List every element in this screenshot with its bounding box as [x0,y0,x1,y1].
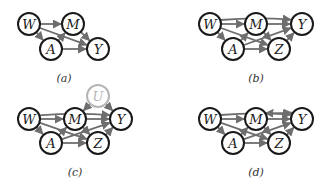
node-u-latent: U [87,85,109,107]
panel-b-nodes: WMYAZ [199,13,313,60]
node-w: W [199,108,221,130]
edge-z-y [106,128,113,135]
node-label: U [93,89,105,104]
node-label: Z [273,42,284,57]
node-m: M [245,108,267,130]
edge-z-y [286,33,293,41]
node-w: W [18,108,40,130]
node-a: A [222,38,244,60]
node-label: Y [298,17,308,32]
node-a: A [222,132,244,154]
node-label: A [227,42,237,57]
edge-z-y [287,128,294,135]
node-label: W [22,17,37,32]
edge-w-a [36,127,42,134]
node-z: Z [87,132,109,154]
node-m: M [245,13,267,35]
node-z: Z [268,38,290,60]
edge-w-a [218,127,225,134]
node-m: M [64,108,86,130]
node-label: W [203,17,218,32]
edge-m-y [81,32,90,41]
node-label: W [22,112,37,127]
node-y: Y [291,108,313,130]
node-label: A [45,136,55,151]
causal-diagrams: WMAYWMYAZWMYAZUWMYAZ [0,0,334,186]
node-label: Z [273,136,284,151]
panel-d-nodes: WMYAZ [199,108,313,154]
panel-b-caption: (b) [248,72,264,85]
node-label: M [248,17,263,32]
edge-w-a [36,32,43,40]
node-label: Z [92,136,103,151]
node-label: Y [117,112,127,127]
node-a: A [40,132,62,154]
edge-u-y [106,104,113,111]
edge-m-y-bidirected [265,113,291,114]
node-label: A [45,42,55,57]
node-w: W [199,13,221,35]
panel-a-caption: (a) [56,72,71,85]
node-label: Y [298,112,308,127]
node-w: W [18,13,40,35]
node-y: Y [291,13,313,35]
node-label: A [227,136,237,151]
node-z: Z [268,132,290,154]
node-m: M [62,13,84,35]
edge-u-m [83,104,90,111]
node-y: Y [87,38,109,60]
node-label: M [67,112,82,127]
node-label: W [203,112,218,127]
node-label: M [65,17,80,32]
panel-d-caption: (d) [248,166,264,179]
node-label: Y [94,42,104,57]
node-a: A [40,38,62,60]
node-label: M [248,112,263,127]
edge-w-a [217,32,224,40]
node-y: Y [110,108,132,130]
panel-c-caption: (c) [68,166,83,179]
